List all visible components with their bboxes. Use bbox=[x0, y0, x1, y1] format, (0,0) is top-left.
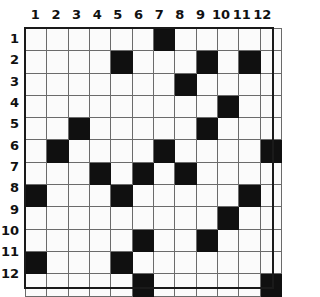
grid-cell-r5-c4[interactable] bbox=[89, 118, 110, 140]
grid-cell-r2-c7[interactable] bbox=[153, 51, 174, 73]
grid-cell-r9-c4[interactable] bbox=[89, 207, 110, 229]
grid-cell-r10-c7[interactable] bbox=[153, 229, 174, 251]
grid-cell-r7-c3[interactable] bbox=[68, 162, 89, 184]
grid-cell-r10-c3[interactable] bbox=[68, 229, 89, 251]
grid-cell-r10-c1[interactable] bbox=[26, 229, 47, 251]
grid-cell-r3-c3[interactable] bbox=[68, 73, 89, 95]
grid-cell-r2-c8[interactable] bbox=[175, 51, 196, 73]
grid-cell-r8-c8[interactable] bbox=[175, 185, 196, 207]
grid-cell-r1-c10[interactable] bbox=[217, 29, 238, 51]
grid-cell-r10-c11[interactable] bbox=[239, 229, 260, 251]
grid-cell-r3-c4[interactable] bbox=[89, 73, 110, 95]
grid-cell-r2-c11[interactable] bbox=[239, 51, 260, 73]
grid-cell-r1-c7[interactable] bbox=[153, 29, 174, 51]
grid-cell-r5-c7[interactable] bbox=[153, 118, 174, 140]
grid-cell-r6-c12[interactable] bbox=[260, 140, 281, 162]
grid-cell-r3-c12[interactable] bbox=[260, 73, 281, 95]
grid-cell-r6-c3[interactable] bbox=[68, 140, 89, 162]
grid-cell-r10-c6[interactable] bbox=[132, 229, 153, 251]
grid-cell-r9-c3[interactable] bbox=[68, 207, 89, 229]
grid-cell-r2-c2[interactable] bbox=[47, 51, 68, 73]
grid-cell-r2-c4[interactable] bbox=[89, 51, 110, 73]
grid-cell-r11-c5[interactable] bbox=[111, 251, 132, 273]
grid-cell-r11-c3[interactable] bbox=[68, 251, 89, 273]
grid-cell-r1-c2[interactable] bbox=[47, 29, 68, 51]
grid-cell-r7-c6[interactable] bbox=[132, 162, 153, 184]
grid-cell-r12-c7[interactable] bbox=[153, 274, 174, 296]
grid-cell-r5-c12[interactable] bbox=[260, 118, 281, 140]
grid-cell-r5-c9[interactable] bbox=[196, 118, 217, 140]
grid-cell-r10-c10[interactable] bbox=[217, 229, 238, 251]
grid-cell-r8-c12[interactable] bbox=[260, 185, 281, 207]
grid-cell-r9-c10[interactable] bbox=[217, 207, 238, 229]
grid-cell-r3-c6[interactable] bbox=[132, 73, 153, 95]
grid-cell-r7-c1[interactable] bbox=[26, 162, 47, 184]
grid-cell-r5-c10[interactable] bbox=[217, 118, 238, 140]
grid-cell-r12-c8[interactable] bbox=[175, 274, 196, 296]
grid-cell-r8-c10[interactable] bbox=[217, 185, 238, 207]
grid-cell-r4-c7[interactable] bbox=[153, 95, 174, 117]
grid-cell-r5-c8[interactable] bbox=[175, 118, 196, 140]
grid-cell-r3-c5[interactable] bbox=[111, 73, 132, 95]
grid-cell-r11-c11[interactable] bbox=[239, 251, 260, 273]
grid-cell-r4-c2[interactable] bbox=[47, 95, 68, 117]
grid-cell-r10-c9[interactable] bbox=[196, 229, 217, 251]
grid-cell-r5-c1[interactable] bbox=[26, 118, 47, 140]
grid-cell-r3-c9[interactable] bbox=[196, 73, 217, 95]
grid-cell-r6-c5[interactable] bbox=[111, 140, 132, 162]
grid-cell-r9-c7[interactable] bbox=[153, 207, 174, 229]
grid-cell-r10-c2[interactable] bbox=[47, 229, 68, 251]
grid-cell-r8-c7[interactable] bbox=[153, 185, 174, 207]
grid-cell-r6-c1[interactable] bbox=[26, 140, 47, 162]
grid-cell-r11-c9[interactable] bbox=[196, 251, 217, 273]
grid-cell-r9-c11[interactable] bbox=[239, 207, 260, 229]
grid-cell-r8-c1[interactable] bbox=[26, 185, 47, 207]
grid-cell-r12-c5[interactable] bbox=[111, 274, 132, 296]
grid-cell-r6-c6[interactable] bbox=[132, 140, 153, 162]
grid-cell-r6-c2[interactable] bbox=[47, 140, 68, 162]
grid-cell-r4-c9[interactable] bbox=[196, 95, 217, 117]
grid-cell-r11-c4[interactable] bbox=[89, 251, 110, 273]
grid-cell-r9-c5[interactable] bbox=[111, 207, 132, 229]
grid-cell-r1-c4[interactable] bbox=[89, 29, 110, 51]
grid-cell-r3-c1[interactable] bbox=[26, 73, 47, 95]
grid-cell-r2-c3[interactable] bbox=[68, 51, 89, 73]
grid-cell-r9-c9[interactable] bbox=[196, 207, 217, 229]
grid-cell-r6-c4[interactable] bbox=[89, 140, 110, 162]
grid-cell-r1-c3[interactable] bbox=[68, 29, 89, 51]
grid-cell-r8-c3[interactable] bbox=[68, 185, 89, 207]
grid-cell-r9-c2[interactable] bbox=[47, 207, 68, 229]
grid-cell-r2-c10[interactable] bbox=[217, 51, 238, 73]
grid-cell-r8-c4[interactable] bbox=[89, 185, 110, 207]
grid-cell-r5-c5[interactable] bbox=[111, 118, 132, 140]
grid-cell-r1-c12[interactable] bbox=[260, 29, 281, 51]
grid-cell-r7-c9[interactable] bbox=[196, 162, 217, 184]
grid-cell-r3-c8[interactable] bbox=[175, 73, 196, 95]
grid-cell-r7-c5[interactable] bbox=[111, 162, 132, 184]
grid-cell-r7-c7[interactable] bbox=[153, 162, 174, 184]
grid-cell-r4-c1[interactable] bbox=[26, 95, 47, 117]
grid-cell-r1-c6[interactable] bbox=[132, 29, 153, 51]
grid-cell-r4-c4[interactable] bbox=[89, 95, 110, 117]
grid-cell-r6-c10[interactable] bbox=[217, 140, 238, 162]
grid-cell-r11-c7[interactable] bbox=[153, 251, 174, 273]
grid-cell-r9-c8[interactable] bbox=[175, 207, 196, 229]
grid-cell-r8-c11[interactable] bbox=[239, 185, 260, 207]
grid-cell-r1-c1[interactable] bbox=[26, 29, 47, 51]
grid-cell-r9-c12[interactable] bbox=[260, 207, 281, 229]
grid-cell-r3-c10[interactable] bbox=[217, 73, 238, 95]
grid-cell-r5-c2[interactable] bbox=[47, 118, 68, 140]
grid-cell-r2-c9[interactable] bbox=[196, 51, 217, 73]
grid-cell-r12-c10[interactable] bbox=[217, 274, 238, 296]
grid-cell-r1-c8[interactable] bbox=[175, 29, 196, 51]
grid-cell-r12-c1[interactable] bbox=[26, 274, 47, 296]
grid-cell-r7-c11[interactable] bbox=[239, 162, 260, 184]
grid-cell-r8-c5[interactable] bbox=[111, 185, 132, 207]
grid-cell-r2-c6[interactable] bbox=[132, 51, 153, 73]
grid-cell-r10-c12[interactable] bbox=[260, 229, 281, 251]
grid-cell-r1-c11[interactable] bbox=[239, 29, 260, 51]
grid-cell-r12-c2[interactable] bbox=[47, 274, 68, 296]
grid-table[interactable] bbox=[25, 28, 282, 297]
grid-cell-r4-c10[interactable] bbox=[217, 95, 238, 117]
grid-cell-r11-c12[interactable] bbox=[260, 251, 281, 273]
